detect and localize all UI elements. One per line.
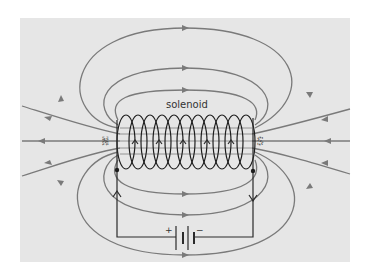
- north-pole-label: N: [102, 135, 109, 148]
- junction-dot: [115, 168, 119, 172]
- solenoid-label: solenoid: [166, 99, 208, 110]
- south-pole-label: S: [257, 135, 264, 148]
- solenoid-field-diagram: solenoid N S + −: [0, 0, 366, 278]
- diagram-panel: [20, 18, 350, 262]
- battery-positive-label: +: [165, 225, 173, 235]
- junction-dot: [251, 169, 255, 173]
- battery-negative-label: −: [196, 225, 204, 235]
